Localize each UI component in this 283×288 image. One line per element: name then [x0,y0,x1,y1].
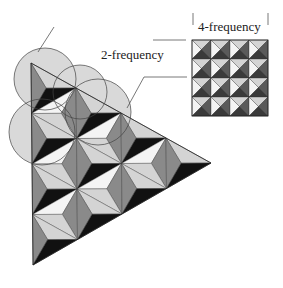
pyramid-frequency-diagram [0,0,283,288]
leader-line [127,77,187,108]
four-frequency-grid [192,40,268,116]
four-frequency-label: 4-frequency [198,19,261,35]
two-frequency-label: 2-frequency [101,47,164,63]
